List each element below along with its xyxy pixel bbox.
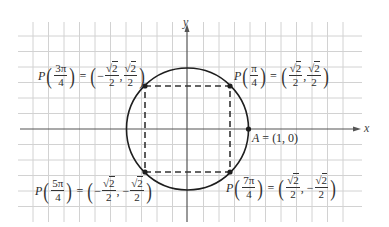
angle-fraction: 7π4 xyxy=(242,175,255,200)
label-point-3pi-4: P ( 3π4 ) = ( − √22 , √22 ) xyxy=(38,63,146,88)
x-fraction: √22 xyxy=(289,63,303,88)
x-axis-label: x xyxy=(364,122,369,134)
lparen: ( xyxy=(235,176,241,200)
label-point-a: A = (1, 0) xyxy=(252,132,298,144)
lparen: ( xyxy=(44,179,50,203)
x-sign: − xyxy=(94,185,101,197)
equals: = xyxy=(76,185,83,197)
rparen: ) xyxy=(67,179,73,203)
comma: , xyxy=(301,182,304,194)
comma: , xyxy=(120,70,123,82)
lparen: ( xyxy=(281,64,287,88)
angle-fraction: 3π4 xyxy=(54,63,67,88)
point-a-name: A xyxy=(252,132,259,144)
rparen: ) xyxy=(260,64,266,88)
equals: = xyxy=(267,182,274,194)
rparen: ) xyxy=(323,64,329,88)
p-symbol: P xyxy=(226,182,233,194)
p-symbol: P xyxy=(35,185,42,197)
p-symbol: P xyxy=(38,70,45,82)
point-7pi-4 xyxy=(227,169,232,174)
angle-fraction: 5π4 xyxy=(51,178,64,203)
lparen: ( xyxy=(243,64,249,88)
rparen: ) xyxy=(330,176,336,200)
point-a xyxy=(246,126,251,131)
y-axis-label: y xyxy=(183,16,188,28)
comma: , xyxy=(303,70,306,82)
x-sign: − xyxy=(97,70,104,82)
y-fraction: √22 xyxy=(130,178,144,203)
lparen: ( xyxy=(87,179,93,203)
label-point-7pi-4: P ( 7π4 ) = ( √22 , − √22 ) xyxy=(226,175,337,200)
y-fraction: √22 xyxy=(315,175,329,200)
angle-fraction: π4 xyxy=(250,63,258,88)
x-fraction: √22 xyxy=(286,175,300,200)
y-fraction: √22 xyxy=(307,63,321,88)
equals: = xyxy=(270,70,277,82)
rparen: ) xyxy=(146,179,152,203)
lparen: ( xyxy=(47,64,53,88)
x-fraction: √22 xyxy=(105,63,119,88)
equals: = xyxy=(79,70,86,82)
y-fraction: √22 xyxy=(124,63,138,88)
y-sign: − xyxy=(123,185,130,197)
x-fraction: √22 xyxy=(102,178,116,203)
lparen: ( xyxy=(90,64,96,88)
lparen: ( xyxy=(278,176,284,200)
point-a-value: (1, 0) xyxy=(272,132,298,144)
y-sign: − xyxy=(307,182,314,194)
point-5pi-4 xyxy=(142,169,147,174)
x-axis-arrow-icon xyxy=(353,127,361,132)
p-symbol: P xyxy=(234,70,241,82)
rparen: ) xyxy=(258,176,264,200)
label-point-pi-4: P ( π4 ) = ( √22 , √22 ) xyxy=(234,63,330,88)
comma: , xyxy=(117,185,120,197)
rparen: ) xyxy=(139,64,145,88)
point-a-equals: = xyxy=(262,132,269,144)
label-point-5pi-4: P ( 5π4 ) = ( − √22 , − √22 ) xyxy=(35,178,153,203)
point-pi-4 xyxy=(227,83,232,88)
rparen: ) xyxy=(70,64,76,88)
